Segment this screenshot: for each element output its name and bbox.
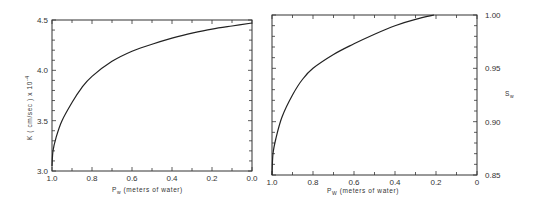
left-data-curve-k [52, 23, 252, 166]
left-y-axis-label: K ( cm/sec ) x 10-4 [24, 75, 34, 140]
left-x-axis-label: Pw (meters of water) [112, 186, 183, 195]
x-tick-label: 0.4 [166, 174, 178, 183]
y-tick-label: 3.0 [37, 167, 49, 176]
y-tick-label: 3.5 [37, 117, 49, 126]
right-tick-labels: 1.00.80.60.40.200.850.900.951.00 [266, 11, 501, 187]
right-chart-sw-vs-pw: 1.00.80.60.40.200.850.900.951.00 PW (met… [266, 11, 514, 196]
x-tick-label: 1.0 [46, 174, 58, 183]
right-y-axis-label: Sw [505, 90, 514, 99]
x-tick-label: 0.0 [246, 174, 258, 183]
y-tick-label: 4.0 [37, 66, 49, 75]
x-tick-label: 0.8 [86, 174, 98, 183]
y-tick-label: 4.5 [37, 16, 49, 25]
left-plot-frame [52, 20, 252, 171]
chart-canvas: 1.00.80.60.40.20.03.03.54.04.5 K ( cm/se… [0, 0, 533, 210]
left-ticks [52, 20, 252, 171]
right-plot-frame [272, 15, 477, 175]
x-tick-label: 1.0 [266, 178, 278, 187]
left-tick-labels: 1.00.80.60.40.20.03.03.54.04.5 [37, 16, 258, 183]
y-tick-label: 0.85 [485, 171, 501, 180]
right-data-curve-sw [272, 15, 434, 175]
x-tick-label: 0.4 [389, 178, 401, 187]
right-ticks [272, 15, 477, 175]
x-tick-label: 0.6 [126, 174, 138, 183]
x-tick-label: 0 [475, 178, 480, 187]
right-x-axis-label: PW (meters of water) [327, 187, 399, 196]
y-tick-label: 0.95 [485, 64, 501, 73]
left-chart-k-vs-pw: 1.00.80.60.40.20.03.03.54.04.5 K ( cm/se… [24, 16, 258, 195]
x-tick-label: 0.8 [307, 178, 319, 187]
x-tick-label: 0.2 [430, 178, 442, 187]
y-tick-label: 0.90 [485, 118, 501, 127]
y-tick-label: 1.00 [485, 11, 501, 20]
x-tick-label: 0.6 [348, 178, 360, 187]
x-tick-label: 0.2 [206, 174, 218, 183]
